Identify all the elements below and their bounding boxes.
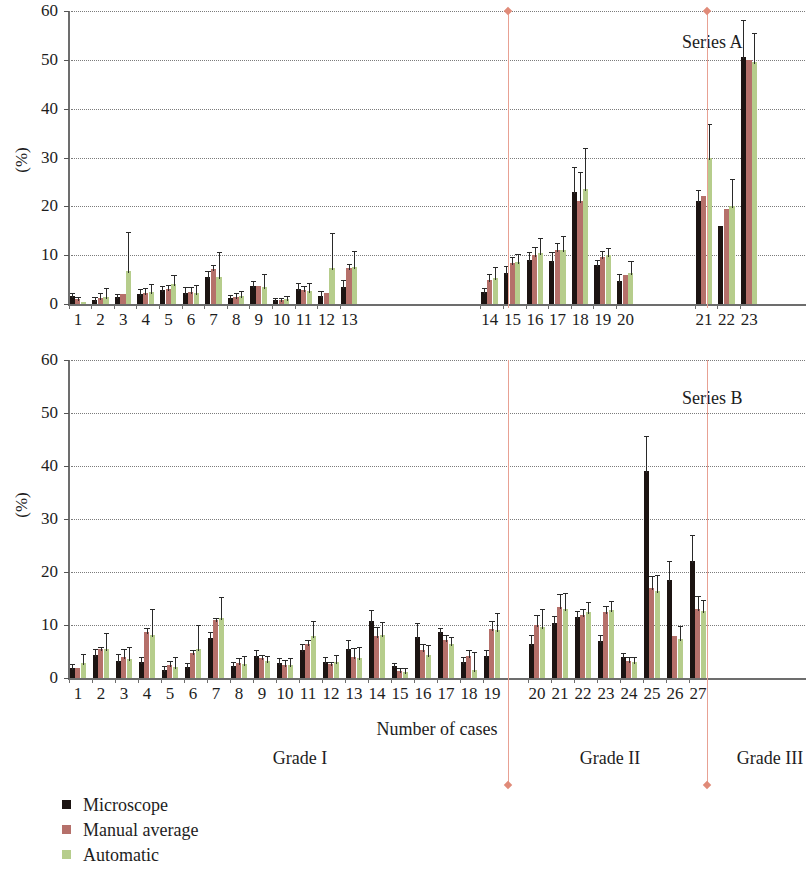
error-bar-cap (572, 167, 577, 168)
bar (438, 632, 443, 678)
y-tick-mark (64, 206, 69, 207)
error-bar (325, 657, 326, 664)
error-bar-cap (374, 627, 379, 628)
bar (718, 226, 723, 304)
bar (121, 657, 126, 678)
error-bar (531, 635, 532, 646)
divider-diamond-marker (504, 781, 512, 789)
error-bar (560, 594, 561, 609)
x-tick-label: 18 (461, 684, 478, 704)
y-tick-label: 60 (24, 6, 58, 16)
bar (560, 250, 565, 304)
x-tick-label: 10 (273, 310, 290, 330)
bar (211, 269, 216, 304)
error-bar-cap (323, 657, 328, 658)
y-tick-label: 30 (24, 514, 58, 524)
x-tick-label: 23 (598, 684, 615, 704)
bar (555, 250, 560, 304)
bar (160, 290, 165, 304)
bar (493, 278, 498, 304)
bar (655, 591, 660, 678)
error-bar-cap (116, 654, 121, 655)
legend-item-manual-average: Manual average (62, 817, 198, 842)
error-bar (577, 611, 578, 618)
error-bar (309, 283, 310, 293)
error-bar-cap (259, 655, 264, 656)
x-tick-mark (230, 679, 231, 683)
error-bar (529, 252, 530, 262)
bar (701, 611, 706, 678)
gridline (71, 572, 805, 573)
error-bar-cap (98, 293, 103, 294)
bar (696, 201, 701, 304)
bar (256, 286, 261, 304)
grade-divider-1-top (508, 11, 509, 308)
x-axis-title: Number of cases (377, 719, 498, 740)
error-bar-cap (487, 274, 492, 275)
x-tick-mark (272, 305, 273, 309)
error-bar (518, 254, 519, 264)
x-tick-label: 27 (690, 684, 707, 704)
error-bar-cap (678, 626, 683, 627)
error-bar-cap (196, 625, 201, 626)
x-tick-label: 8 (232, 310, 241, 330)
x-tick-label: 19 (594, 310, 611, 330)
bar (426, 655, 431, 678)
error-bar-cap (251, 281, 256, 282)
bar (701, 196, 706, 304)
error-bar (497, 613, 498, 632)
chart-series-b: (%) Series B 010203040506012345678910111… (0, 340, 809, 700)
bar (127, 659, 132, 678)
bar (254, 656, 259, 678)
error-bar (298, 283, 299, 291)
x-tick-label: 9 (258, 684, 267, 704)
x-tick-label: 21 (552, 684, 569, 704)
error-bar (732, 179, 733, 208)
error-bar-cap (578, 172, 583, 173)
error-bar (585, 148, 586, 192)
error-bar-cap (466, 650, 471, 651)
gridline (71, 158, 805, 159)
error-bar-cap (265, 656, 270, 657)
bar (552, 623, 557, 678)
error-bar (290, 658, 291, 666)
bar (557, 607, 562, 678)
error-bar (332, 233, 333, 270)
bar (300, 650, 305, 678)
error-bar (428, 645, 429, 657)
error-bar (359, 647, 360, 660)
legend-swatch-microscope (62, 800, 71, 809)
bar (120, 294, 125, 304)
x-tick-label: 9 (255, 310, 264, 330)
x-tick-mark (526, 305, 527, 309)
legend-label-microscope: Microscope (83, 796, 168, 814)
x-tick-label: 15 (392, 684, 409, 704)
error-bar-cap (190, 650, 195, 651)
x-tick-label: 5 (166, 684, 175, 704)
x-tick-mark (340, 305, 341, 309)
bar (277, 663, 282, 678)
error-bar (542, 609, 543, 629)
error-bar-cap (644, 436, 649, 437)
error-bar-cap (217, 252, 222, 253)
x-tick-label: 22 (575, 684, 592, 704)
error-bar-cap (104, 288, 109, 289)
error-bar-cap (160, 286, 165, 287)
error-bar (631, 261, 632, 275)
error-bar (574, 167, 575, 193)
x-tick-label: 21 (696, 310, 713, 330)
error-bar (709, 124, 710, 160)
series-b-title: Series B (682, 388, 743, 409)
x-tick-mark (571, 305, 572, 309)
error-bar-cap (580, 609, 585, 610)
error-bar-cap (334, 655, 339, 656)
error-bar-cap (626, 657, 631, 658)
error-bar (152, 609, 153, 636)
legend-swatch-manual-average (62, 825, 71, 834)
x-tick-mark (115, 679, 116, 683)
bar (510, 263, 515, 304)
error-bar-cap (472, 652, 477, 653)
bar (324, 293, 329, 304)
bar (672, 636, 677, 678)
x-tick-mark (437, 679, 438, 683)
